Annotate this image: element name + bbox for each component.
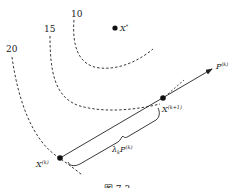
diagram-canvas: 10 15 20 X* P(k) X(k) X(k+1) λkP(k) 图 7.… — [0, 0, 236, 188]
step-label: λkP(k) — [111, 144, 132, 155]
contour-20 — [12, 57, 82, 175]
contour-label-20: 20 — [6, 44, 18, 54]
contour-15 — [50, 36, 160, 110]
current-point — [57, 155, 63, 161]
direction-arrow — [60, 69, 212, 158]
optimum-point — [112, 25, 117, 30]
step-brace — [68, 108, 159, 166]
figure-caption: 图 7.3 — [104, 184, 130, 188]
next-point — [160, 95, 166, 101]
next-point-label: X(k+1) — [161, 104, 182, 114]
contour-label-10: 10 — [71, 9, 83, 19]
contour-label-15: 15 — [44, 24, 56, 34]
direction-label: P(k) — [215, 61, 228, 71]
current-point-label: X(k) — [35, 159, 49, 169]
optimum-label: X* — [119, 23, 129, 33]
